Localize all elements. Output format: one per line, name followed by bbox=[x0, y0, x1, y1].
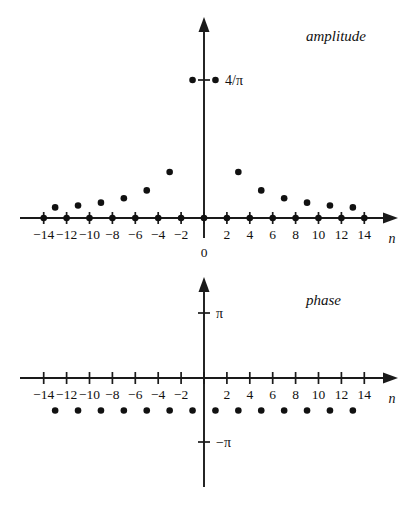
data-point bbox=[75, 202, 82, 209]
data-point bbox=[109, 215, 116, 222]
x-tick-label-4: 4 bbox=[246, 387, 253, 402]
data-point bbox=[304, 199, 311, 206]
amplitude-panel: 4/π −14−12−10−8−6−4−22468101214 0 n ampl… bbox=[20, 17, 398, 260]
phase-y-tick-label-pi: π bbox=[216, 306, 223, 321]
data-point bbox=[304, 407, 311, 414]
x-tick-label--6: −6 bbox=[128, 227, 143, 242]
x-tick-label--4: −4 bbox=[151, 227, 166, 242]
phase-x-tick-labels: −14−12−10−8−6−4−22468101214 bbox=[33, 387, 371, 402]
x-tick-label--2: −2 bbox=[174, 227, 188, 242]
fourier-spectrum-figure: 4/π −14−12−10−8−6−4−22468101214 0 n ampl… bbox=[0, 0, 420, 509]
data-point bbox=[247, 215, 254, 222]
data-point bbox=[361, 215, 368, 222]
amplitude-x-axis-arrowhead bbox=[383, 213, 398, 224]
data-point bbox=[166, 169, 173, 176]
x-tick-label--14: −14 bbox=[33, 387, 54, 402]
data-point bbox=[86, 215, 93, 222]
data-point bbox=[224, 215, 231, 222]
amplitude-y-axis-arrowhead bbox=[199, 17, 210, 32]
amplitude-panel-label: amplitude bbox=[306, 28, 366, 44]
x-tick-label--6: −6 bbox=[128, 387, 143, 402]
data-point bbox=[121, 195, 128, 202]
x-tick-label--10: −10 bbox=[79, 387, 100, 402]
data-point bbox=[258, 187, 265, 194]
data-point bbox=[143, 407, 150, 414]
x-tick-label--8: −8 bbox=[105, 387, 120, 402]
data-point bbox=[327, 407, 334, 414]
x-tick-label-12: 12 bbox=[335, 387, 349, 402]
x-tick-label-14: 14 bbox=[358, 227, 372, 242]
phase-x-axis-arrowhead bbox=[383, 373, 398, 384]
data-point bbox=[52, 407, 59, 414]
data-point bbox=[155, 215, 162, 222]
amplitude-y-tick-label: 4/π bbox=[225, 73, 243, 88]
x-tick-label-8: 8 bbox=[292, 387, 299, 402]
data-point bbox=[63, 215, 70, 222]
x-tick-label-14: 14 bbox=[358, 387, 372, 402]
data-point bbox=[292, 215, 299, 222]
data-point bbox=[212, 407, 219, 414]
phase-y-axis-arrowhead bbox=[199, 277, 210, 292]
data-point bbox=[338, 215, 345, 222]
data-point bbox=[350, 407, 357, 414]
x-tick-label--14: −14 bbox=[33, 227, 54, 242]
x-tick-label-2: 2 bbox=[224, 227, 231, 242]
data-point bbox=[75, 407, 82, 414]
data-point bbox=[258, 407, 265, 414]
phase-panel: π −π −14−12−10−8−6−4−22468101214 n phase bbox=[20, 277, 398, 487]
data-point bbox=[212, 77, 219, 84]
data-point bbox=[201, 215, 208, 222]
phase-y-tick-label-neg-pi: −π bbox=[216, 435, 231, 450]
x-tick-label--10: −10 bbox=[79, 227, 100, 242]
x-tick-label--8: −8 bbox=[105, 227, 120, 242]
data-point bbox=[98, 407, 105, 414]
data-point bbox=[178, 215, 185, 222]
x-tick-label--2: −2 bbox=[174, 387, 188, 402]
data-point bbox=[98, 199, 105, 206]
amplitude-x-tick-labels: −14−12−10−8−6−4−22468101214 bbox=[33, 227, 371, 242]
data-point bbox=[281, 407, 288, 414]
phase-x-axis-name: n bbox=[389, 391, 396, 406]
data-point bbox=[235, 407, 242, 414]
x-tick-label--12: −12 bbox=[56, 227, 77, 242]
x-tick-label-2: 2 bbox=[224, 387, 231, 402]
data-point bbox=[40, 215, 47, 222]
data-point bbox=[189, 407, 196, 414]
data-point bbox=[315, 215, 322, 222]
x-tick-label-6: 6 bbox=[269, 227, 276, 242]
x-tick-label-12: 12 bbox=[335, 227, 349, 242]
data-point bbox=[281, 195, 288, 202]
data-point bbox=[235, 169, 242, 176]
data-point bbox=[52, 204, 59, 211]
data-point bbox=[350, 204, 357, 211]
data-point bbox=[269, 215, 276, 222]
data-point bbox=[132, 215, 139, 222]
data-point bbox=[327, 202, 334, 209]
amplitude-x-axis-name: n bbox=[389, 231, 396, 246]
data-point bbox=[143, 187, 150, 194]
x-tick-label--12: −12 bbox=[56, 387, 77, 402]
data-point bbox=[166, 407, 173, 414]
phase-panel-label: phase bbox=[305, 292, 341, 308]
x-tick-label-4: 4 bbox=[246, 227, 253, 242]
x-tick-label-10: 10 bbox=[312, 387, 326, 402]
x-tick-label--4: −4 bbox=[151, 387, 166, 402]
x-tick-label-8: 8 bbox=[292, 227, 299, 242]
x-tick-label-10: 10 bbox=[312, 227, 326, 242]
spectrum-svg: 4/π −14−12−10−8−6−4−22468101214 0 n ampl… bbox=[0, 0, 420, 509]
data-point bbox=[121, 407, 128, 414]
x-tick-label-6: 6 bbox=[269, 387, 276, 402]
data-point bbox=[189, 77, 196, 84]
amplitude-origin-label: 0 bbox=[201, 245, 208, 260]
